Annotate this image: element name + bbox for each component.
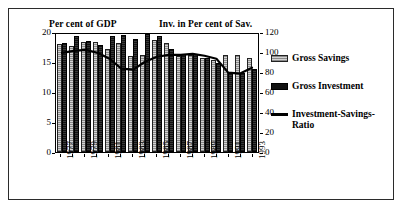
- x-tick-label: 1983: [137, 141, 147, 159]
- x-tick-mark: [180, 154, 181, 157]
- x-tick-mark: [240, 154, 241, 157]
- x-tick-label: 1989: [209, 141, 219, 159]
- investment-swatch: [271, 83, 288, 90]
- y-tick-label: 15: [25, 57, 51, 67]
- legend-item: Gross Savings: [271, 53, 391, 64]
- y2-tick-mark: [260, 93, 263, 94]
- y2-tick-label: 120: [265, 27, 291, 37]
- y-tick-label: 5: [25, 117, 51, 127]
- legend-label: Gross Investment: [292, 81, 363, 92]
- chart-legend: Gross SavingsGross InvestmentInvestment-…: [271, 53, 391, 148]
- y-tick-mark: [52, 63, 55, 64]
- x-tick-mark: [72, 154, 73, 157]
- x-tick-mark: [228, 154, 229, 157]
- ratio-line-swatch: [271, 113, 288, 116]
- left-axis-title: Per cent of GDP: [49, 19, 117, 29]
- y2-tick-label: 0: [265, 147, 291, 157]
- x-tick-mark: [132, 154, 133, 157]
- legend-item: Investment-Savings-Ratio: [271, 109, 391, 131]
- ratio-line-series: [56, 34, 258, 152]
- y-tick-label: 20: [25, 27, 51, 37]
- y2-tick-mark: [260, 73, 263, 74]
- x-tick-label: 1979: [89, 141, 99, 159]
- x-tick-label: 1991: [233, 141, 243, 159]
- x-tick-label: 1993: [257, 141, 267, 159]
- savings-swatch: [271, 55, 288, 62]
- x-tick-mark: [192, 154, 193, 157]
- x-tick-label: 1985: [161, 141, 171, 159]
- x-tick-label: 1981: [113, 141, 123, 159]
- x-tick-mark: [252, 154, 253, 157]
- y-tick-mark: [52, 93, 55, 94]
- x-tick-label: 1977: [65, 141, 75, 159]
- x-tick-mark: [60, 154, 61, 157]
- plot-area: [55, 33, 259, 153]
- plot-inner: [56, 34, 258, 152]
- legend-label: Gross Savings: [292, 53, 349, 64]
- figure-frame: Per cent of GDP Inv. in Per cent of Sav.…: [8, 8, 394, 200]
- y-tick-mark: [52, 153, 55, 154]
- x-tick-mark: [96, 154, 97, 157]
- x-tick-mark: [144, 154, 145, 157]
- right-axis-title: Inv. in Per cent of Sav.: [159, 19, 252, 29]
- x-tick-mark: [156, 154, 157, 157]
- y-tick-mark: [52, 33, 55, 34]
- y-tick-label: 0: [25, 147, 51, 157]
- x-tick-label: 1987: [185, 141, 195, 159]
- y-tick-mark: [52, 123, 55, 124]
- y-tick-label: 10: [25, 87, 51, 97]
- x-tick-mark: [168, 154, 169, 157]
- y2-tick-mark: [260, 133, 263, 134]
- x-tick-mark: [204, 154, 205, 157]
- y2-tick-mark: [260, 113, 263, 114]
- y2-tick-mark: [260, 53, 263, 54]
- x-tick-mark: [108, 154, 109, 157]
- x-tick-mark: [216, 154, 217, 157]
- legend-item: Gross Investment: [271, 81, 391, 92]
- legend-label: Investment-Savings-Ratio: [292, 109, 391, 131]
- x-tick-mark: [84, 154, 85, 157]
- x-tick-mark: [120, 154, 121, 157]
- y2-tick-mark: [260, 33, 263, 34]
